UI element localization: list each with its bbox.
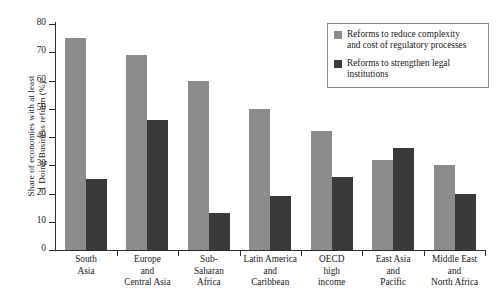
- y-axis-tick-label: 50: [37, 102, 46, 112]
- legend-swatch-icon-light: [334, 31, 342, 39]
- bar: [372, 160, 393, 250]
- y-axis-tick: 80: [49, 24, 55, 25]
- bar: [249, 109, 270, 250]
- bar-chart: Share of economies with at least 1 Doing…: [0, 0, 497, 306]
- legend-label-regulatory: Reforms to reduce complexity and cost of…: [347, 29, 466, 52]
- y-axis-title-container: Share of economies with at least 1 Doing…: [0, 0, 34, 260]
- y-axis-tick: 50: [49, 109, 55, 110]
- y-axis-tick: 10: [49, 222, 55, 223]
- bar: [311, 131, 332, 250]
- bar: [209, 213, 230, 250]
- x-axis-category-label: Latin America and Caribbean: [240, 254, 301, 289]
- x-axis-category-label: Europe and Central Asia: [117, 254, 178, 289]
- bar: [434, 165, 455, 250]
- legend-item-regulatory: Reforms to reduce complexity and cost of…: [334, 29, 482, 52]
- y-axis-tick-label: 20: [37, 187, 46, 197]
- chart-legend: Reforms to reduce complexity and cost of…: [327, 23, 489, 88]
- y-axis-tick: 0: [49, 250, 55, 251]
- bar: [332, 177, 353, 250]
- x-axis-category-label: Middle East and North Africa: [424, 254, 485, 289]
- y-axis-tick: 30: [49, 165, 55, 166]
- bar: [393, 148, 414, 250]
- bar: [86, 179, 107, 250]
- x-axis-category-label: East Asia and Pacific: [362, 254, 423, 289]
- bar: [188, 81, 209, 251]
- y-axis-tick: 40: [49, 137, 55, 138]
- legend-swatch-icon-dark: [334, 60, 342, 68]
- x-axis-category-label: Sub- Saharan Africa: [178, 254, 239, 289]
- x-axis-category-label: South Asia: [55, 254, 116, 277]
- y-axis-tick-label: 30: [37, 158, 46, 168]
- x-axis-labels: South AsiaEurope and Central AsiaSub- Sa…: [55, 254, 485, 306]
- y-axis-tick-label: 10: [37, 215, 46, 225]
- y-axis-tick-label: 40: [37, 130, 46, 140]
- y-axis-tick-label: 70: [37, 45, 46, 55]
- bar: [126, 55, 147, 250]
- y-axis-tick-label: 80: [37, 17, 46, 27]
- bar: [65, 38, 86, 250]
- y-axis-tick: 60: [49, 81, 55, 82]
- bar: [270, 196, 291, 250]
- y-axis-tick-label: 0: [41, 243, 46, 253]
- bar: [147, 120, 168, 250]
- y-axis-tick-label: 60: [37, 74, 46, 84]
- legend-item-legal: Reforms to strengthen legal institutions: [334, 58, 482, 81]
- x-axis-category-label: OECD high income: [301, 254, 362, 289]
- legend-label-legal: Reforms to strengthen legal institutions: [347, 58, 450, 81]
- y-axis-tick: 70: [49, 52, 55, 53]
- bar: [455, 194, 476, 251]
- x-axis-line: [55, 250, 485, 251]
- y-axis-tick: 20: [49, 194, 55, 195]
